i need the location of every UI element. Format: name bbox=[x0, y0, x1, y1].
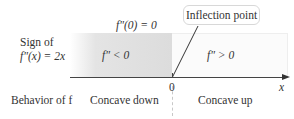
divider-dashed-line bbox=[172, 86, 173, 116]
concave-down-label: Concave down bbox=[90, 94, 159, 107]
axis-arrow-icon bbox=[282, 74, 290, 80]
concave-up-label: Concave up bbox=[198, 94, 253, 107]
x-axis bbox=[70, 77, 284, 78]
zero-tick bbox=[172, 73, 173, 78]
axis-variable-label: x bbox=[279, 81, 284, 94]
